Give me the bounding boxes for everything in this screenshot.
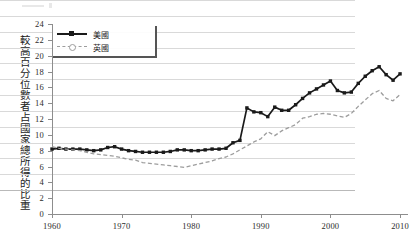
legend-border-right — [155, 26, 157, 58]
data-point — [196, 149, 199, 152]
data-point — [190, 149, 193, 152]
data-point — [155, 151, 158, 154]
data-point — [350, 90, 353, 93]
data-point — [127, 149, 130, 152]
legend-swatch-solid-square-icon — [57, 29, 87, 39]
data-point — [245, 106, 248, 109]
data-point — [120, 147, 123, 150]
data-point — [266, 115, 269, 118]
data-point — [85, 148, 88, 151]
data-point — [238, 139, 241, 142]
legend-label-uk: 英國 — [93, 42, 109, 53]
data-point — [280, 109, 283, 112]
data-point — [398, 72, 401, 75]
data-point — [252, 110, 255, 113]
data-point — [134, 150, 137, 153]
data-point — [99, 148, 102, 151]
data-point — [308, 91, 311, 94]
data-point — [113, 145, 116, 148]
data-point — [391, 79, 394, 82]
data-point — [364, 75, 367, 78]
data-point — [210, 147, 213, 150]
legend-swatch-dashed-circle-icon — [57, 42, 87, 52]
data-point — [224, 147, 227, 150]
data-point — [169, 150, 172, 153]
legend-border-bottom — [53, 56, 157, 58]
data-point — [259, 111, 262, 114]
legend: 美國 英國 — [53, 26, 157, 58]
data-point — [384, 73, 387, 76]
data-point — [162, 151, 165, 154]
series-line-英國 — [52, 91, 400, 168]
data-point — [203, 148, 206, 151]
data-point — [329, 79, 332, 82]
legend-item-us[interactable]: 美國 — [57, 28, 109, 40]
data-point — [148, 151, 151, 154]
data-point — [92, 149, 95, 152]
legend-label-us: 美國 — [93, 29, 109, 40]
data-point — [217, 147, 220, 150]
series-line-美國 — [52, 67, 400, 153]
data-point — [287, 109, 290, 112]
data-point — [106, 146, 109, 149]
data-point — [301, 97, 304, 100]
data-point — [377, 65, 380, 68]
chart-root: 較高百分位數者占國家總所得的比重 024681012141618202224 1… — [0, 0, 415, 252]
data-point — [336, 89, 339, 92]
data-point — [315, 87, 318, 90]
data-point — [357, 82, 360, 85]
data-point — [231, 141, 234, 144]
data-point — [176, 148, 179, 151]
data-point — [50, 147, 53, 150]
data-point — [294, 103, 297, 106]
data-point — [343, 91, 346, 94]
data-point — [141, 151, 144, 154]
legend-item-uk[interactable]: 英國 — [57, 41, 109, 53]
data-point — [183, 148, 186, 151]
data-point — [371, 69, 374, 72]
data-point — [322, 83, 325, 86]
data-point — [273, 105, 276, 108]
